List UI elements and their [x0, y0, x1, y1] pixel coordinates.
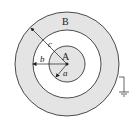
label-c: c	[48, 39, 52, 49]
label-B: B	[62, 16, 69, 27]
concentric-spheres-diagram: B A c b a	[0, 0, 132, 122]
ground-icon	[119, 77, 129, 96]
label-A: A	[62, 51, 70, 62]
label-a: a	[63, 68, 68, 78]
label-b: b	[40, 54, 45, 64]
